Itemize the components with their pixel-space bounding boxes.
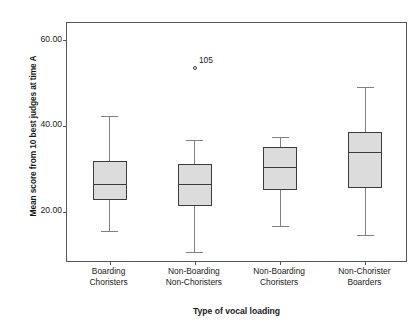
y-axis-tick-label: 20.00 xyxy=(16,206,62,215)
x-axis-tick-label: Non-Boarding Non-Choristers xyxy=(151,266,236,288)
median-line xyxy=(93,184,127,185)
plot-area: 105 xyxy=(66,22,407,262)
box-plot-group xyxy=(93,23,127,261)
x-axis-tick-label: Boarding Choristers xyxy=(66,266,151,288)
upper-whisker-cap xyxy=(357,87,374,88)
lower-whisker xyxy=(109,200,110,230)
upper-whisker-cap xyxy=(272,137,289,138)
upper-whisker xyxy=(194,140,195,164)
median-line xyxy=(178,184,212,185)
x-axis-title: Type of vocal loading xyxy=(66,306,407,316)
upper-whisker-cap xyxy=(186,140,203,141)
median-line xyxy=(348,152,382,153)
x-axis-tick-mark xyxy=(365,261,366,265)
x-axis-tick-label: Non-Chorister Boarders xyxy=(322,266,407,288)
x-axis-tick-mark xyxy=(195,261,196,265)
lower-whisker xyxy=(194,206,195,252)
lower-whisker-cap xyxy=(272,226,289,227)
lower-whisker-cap xyxy=(186,252,203,253)
outlier-label: 105 xyxy=(199,56,213,65)
median-line xyxy=(263,167,297,168)
x-axis-tick-label: Non-Boarding Choristers xyxy=(237,266,322,288)
box-iqr xyxy=(348,132,382,188)
boxplot-figure: Mean score from 10 best judges at time A… xyxy=(0,0,413,331)
x-axis-tick-mark xyxy=(280,261,281,265)
lower-whisker-cap xyxy=(101,231,118,232)
box-iqr xyxy=(178,164,212,206)
upper-whisker xyxy=(280,137,281,147)
y-axis-tick-mark xyxy=(63,212,67,213)
y-axis-tick-labels: 20.0040.0060.00 xyxy=(12,0,62,260)
y-axis-tick-label: 40.00 xyxy=(16,120,62,129)
y-axis-tick-label: 60.00 xyxy=(16,35,62,44)
box-iqr xyxy=(263,147,297,190)
upper-whisker xyxy=(365,87,366,132)
x-axis-tick-labels: Boarding ChoristersNon-Boarding Non-Chor… xyxy=(66,266,407,302)
y-axis-tick-mark xyxy=(63,126,67,127)
upper-whisker-cap xyxy=(101,116,118,117)
lower-whisker xyxy=(365,188,366,235)
box-iqr xyxy=(93,161,127,201)
box-plot-group xyxy=(263,23,297,261)
y-axis-tick-mark xyxy=(63,40,67,41)
x-axis-tick-mark xyxy=(110,261,111,265)
outlier-point xyxy=(193,66,197,70)
box-plot-group xyxy=(348,23,382,261)
lower-whisker xyxy=(280,190,281,226)
lower-whisker-cap xyxy=(357,235,374,236)
upper-whisker xyxy=(109,116,110,161)
